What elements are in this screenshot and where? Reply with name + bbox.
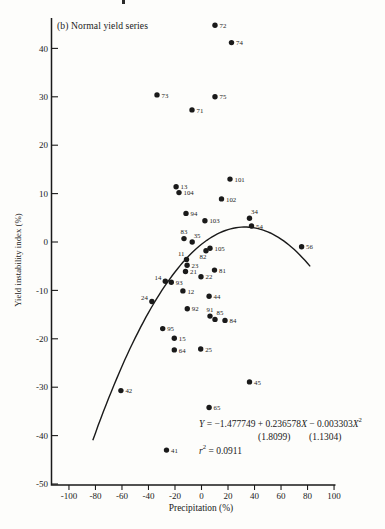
data-point (163, 279, 168, 284)
point-label: 93 (176, 279, 183, 286)
y-tick-label: 20 (39, 140, 49, 150)
point-label: 91 (207, 306, 214, 313)
point-label: 84 (230, 317, 237, 324)
point-label: 71 (197, 107, 204, 114)
data-point (212, 94, 217, 99)
point-label: 11 (178, 250, 185, 257)
data-point (185, 306, 190, 311)
data-point (154, 92, 159, 97)
point-label: 82 (200, 253, 207, 260)
x-tick-label: 0 (199, 491, 204, 501)
point-label: 25 (205, 346, 212, 353)
x-tick-label: 100 (327, 491, 341, 501)
point-label: 65 (214, 404, 221, 411)
point-label: 103 (209, 217, 220, 224)
data-point (212, 23, 217, 28)
data-point (184, 263, 189, 268)
data-point (118, 388, 123, 393)
point-label: 83 (181, 228, 188, 235)
data-point (299, 244, 304, 249)
data-point (183, 211, 188, 216)
data-point (206, 405, 211, 410)
figure-page: -100-80-60-40-20020406080100403020100-10… (0, 0, 385, 529)
point-label: 34 (251, 208, 258, 215)
equation-fragment: 2 (203, 443, 206, 450)
standard-error-1: (1.8099) (258, 432, 290, 442)
data-point (198, 346, 203, 351)
equation-fragment: = 0.0911 (206, 446, 242, 456)
data-point (206, 294, 211, 299)
y-tick-label: -30 (36, 382, 48, 392)
point-label: 75 (220, 93, 227, 100)
y-tick-label: 30 (39, 92, 49, 102)
scatter-plot: -100-80-60-40-20020406080100403020100-10… (0, 0, 385, 529)
data-point (190, 239, 195, 244)
data-point (198, 274, 203, 279)
data-point (249, 223, 254, 228)
point-label: 45 (254, 379, 261, 386)
regression-equation: Y = −1.477749 + 0.236578X − 0.003303X2 (199, 419, 362, 429)
x-axis-title: Precipitation (%) (133, 503, 269, 513)
point-label: 44 (214, 293, 221, 300)
data-point (149, 299, 154, 304)
point-label: 105 (215, 245, 226, 252)
y-axis-title: Yield instability index (%) (13, 160, 25, 360)
x-tick-label: -20 (169, 491, 181, 501)
y-tick-label: -50 (36, 479, 48, 489)
point-label: 14 (155, 274, 162, 281)
data-point (212, 317, 217, 322)
point-label: 94 (191, 210, 198, 217)
x-tick-label: -60 (116, 491, 128, 501)
data-point (169, 280, 174, 285)
x-tick-label: -80 (89, 491, 101, 501)
point-label: 104 (184, 189, 195, 196)
point-label: 81 (219, 267, 226, 274)
point-label: 21 (190, 268, 197, 275)
point-label: 92 (192, 305, 199, 312)
data-point (212, 267, 217, 272)
data-point (180, 288, 185, 293)
x-tick-label: 20 (224, 491, 234, 501)
data-point (219, 196, 224, 201)
data-point (172, 347, 177, 352)
point-label: 41 (171, 447, 178, 454)
point-label: 73 (162, 92, 169, 99)
y-tick-label: 10 (39, 189, 49, 199)
data-point (247, 216, 252, 221)
data-point (189, 107, 194, 112)
point-label: 95 (167, 325, 174, 332)
y-tick-label: 0 (44, 237, 49, 247)
y-tick-label: -20 (36, 334, 48, 344)
point-label: 74 (236, 39, 243, 46)
data-point (222, 318, 227, 323)
point-label: 35 (194, 232, 201, 239)
point-label: 85 (217, 309, 224, 316)
point-label: 22 (206, 273, 213, 280)
chart-title: (b) Normal yield series (57, 20, 148, 31)
data-point (173, 184, 178, 189)
point-label: 56 (306, 243, 313, 250)
r-squared-value: r2 = 0.0911 (199, 446, 242, 456)
point-label: 24 (141, 294, 148, 301)
x-tick-label: -100 (61, 491, 78, 501)
point-label: 54 (256, 223, 263, 230)
data-point (247, 379, 252, 384)
data-point (183, 269, 188, 274)
y-tick-label: 40 (39, 44, 49, 54)
data-point (172, 336, 177, 341)
data-point (176, 190, 181, 195)
data-point (181, 236, 186, 241)
point-label: 72 (220, 22, 227, 29)
x-tick-label: -40 (142, 491, 154, 501)
equation-fragment: − 0.003303 (307, 419, 353, 429)
point-label: 15 (179, 335, 186, 342)
data-point (164, 447, 169, 452)
x-tick-label: 40 (250, 491, 260, 501)
data-point (160, 326, 165, 331)
data-point (202, 218, 207, 223)
point-label: 12 (187, 288, 194, 295)
point-label: 64 (179, 347, 186, 354)
point-label: 42 (125, 387, 132, 394)
data-point (229, 40, 234, 45)
y-tick-label: -10 (36, 286, 48, 296)
